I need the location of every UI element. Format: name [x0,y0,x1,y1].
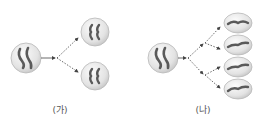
chromosome-icon [90,25,92,39]
dotted-arrow-icon [188,44,203,58]
dotted-arrow-icon [205,43,220,49]
chromosome-icon [97,25,99,39]
gamete-cell [224,13,252,33]
dotted-arrow-icon [57,58,78,72]
dotted-arrow-icon [205,67,220,75]
parent-cell [148,43,178,73]
diagram-ga [11,18,109,90]
diagram-label-na: (나) [195,103,210,116]
dotted-arrow-icon [205,75,220,88]
daughter-cell [81,62,109,90]
diagram-na [148,13,252,99]
gamete-cell [224,79,252,99]
parent-cell [11,43,41,73]
daughter-cell [81,18,109,46]
chromosome-icon [90,69,92,83]
dotted-arrow-icon [205,27,220,43]
diagram-label-ga: (가) [52,103,67,116]
dotted-arrow-icon [57,38,78,58]
gamete-cell [224,57,252,77]
cell-division-diagram [0,0,261,125]
chromosome-icon [97,69,99,83]
gamete-cell [224,35,252,55]
dotted-arrow-icon [188,58,203,74]
